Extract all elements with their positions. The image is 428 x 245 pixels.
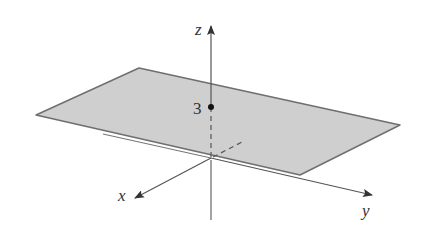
point-z-3 xyxy=(208,104,214,110)
plane-z-equals-3 xyxy=(36,68,400,175)
plane-diagram: z 3 x y xyxy=(0,0,428,245)
y-axis-label: y xyxy=(360,201,370,220)
x-axis xyxy=(135,158,211,198)
z-axis-label: z xyxy=(194,20,202,39)
point-3-label: 3 xyxy=(193,99,202,118)
x-axis-label: x xyxy=(117,186,126,205)
